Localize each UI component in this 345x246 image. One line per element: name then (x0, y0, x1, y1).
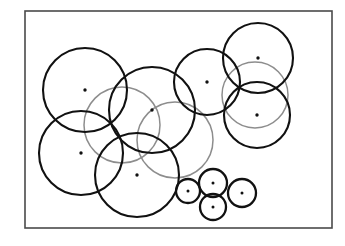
center-dot-small-disk-left (187, 190, 190, 193)
disk-diagram-svg (0, 0, 345, 246)
center-dot-small-disk-right (241, 192, 244, 195)
center-dot-right-middle-disk (255, 113, 258, 116)
center-dot-top-left-large-disk (83, 88, 86, 91)
center-dot-lower-left-large-disk (79, 151, 82, 154)
figure-border (25, 11, 332, 228)
figure-container: Overlapping disk coverage diagram (0, 0, 345, 246)
center-dot-small-disk-bottom (212, 206, 215, 209)
center-dot-small-disk-top (212, 182, 215, 185)
center-dot-top-right-disk (256, 56, 259, 59)
center-dot-upper-middle-disk (205, 80, 208, 83)
center-dot-center-left-large-disk (150, 108, 153, 111)
center-dot-lower-middle-large-disk (135, 173, 138, 176)
